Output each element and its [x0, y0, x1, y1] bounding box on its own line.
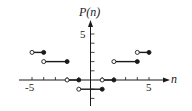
- open-endpoint-icon: [100, 78, 104, 82]
- closed-endpoint-icon: [42, 50, 46, 54]
- y-axis-arrow-icon: [88, 20, 93, 27]
- closed-endpoint-icon: [65, 60, 69, 64]
- step-segment: [135, 50, 151, 54]
- closed-endpoint-icon: [112, 78, 116, 82]
- axes: [19, 20, 170, 106]
- step-segment: [100, 78, 116, 82]
- step-segment: [30, 50, 46, 54]
- closed-endpoint-icon: [135, 60, 139, 64]
- closed-endpoint-icon: [100, 87, 104, 91]
- y-axis-label: P(n): [79, 7, 100, 18]
- open-endpoint-icon: [65, 78, 69, 82]
- open-endpoint-icon: [135, 50, 139, 54]
- y-tick-label-5: 5: [80, 29, 86, 40]
- step-segment: [42, 60, 69, 64]
- open-endpoint-icon: [30, 50, 34, 54]
- open-endpoint-icon: [42, 60, 46, 64]
- step-segment: [65, 78, 81, 82]
- x-axis-arrow-icon: [163, 78, 170, 83]
- open-endpoint-icon: [77, 87, 81, 91]
- x-tick-label-5: 5: [146, 82, 152, 93]
- closed-endpoint-icon: [77, 78, 81, 82]
- x-tick-label-neg5: -5: [25, 82, 34, 93]
- x-axis-label: n: [171, 74, 177, 85]
- closed-endpoint-icon: [147, 50, 151, 54]
- step-segment: [112, 60, 139, 64]
- open-endpoint-icon: [112, 60, 116, 64]
